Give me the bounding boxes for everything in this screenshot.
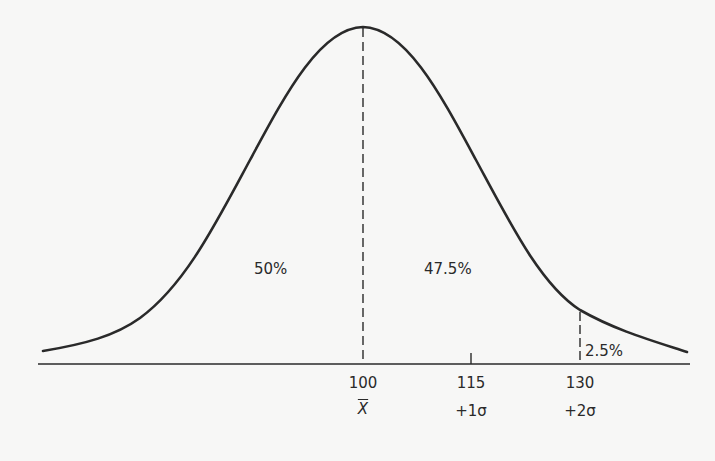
normal-curve [43, 27, 687, 352]
mean-symbol-xbar: X [333, 400, 393, 418]
region-label-left: 50% [254, 260, 287, 278]
tick-label-115: 115 [441, 374, 501, 392]
region-label-middle: 47.5% [424, 260, 472, 278]
sigma-label-plus-2: +2σ [550, 402, 610, 420]
tick-label-100: 100 [333, 374, 393, 392]
sigma-label-plus-1: +1σ [441, 402, 501, 420]
tick-label-130: 130 [550, 374, 610, 392]
region-label-tail: 2.5% [585, 342, 623, 360]
